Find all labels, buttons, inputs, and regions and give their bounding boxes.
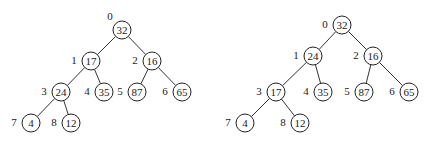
tree-node: 875 <box>117 83 146 101</box>
node-value: 87 <box>132 86 144 98</box>
tree-edge <box>282 62 306 85</box>
node-index-label: 8 <box>51 116 57 128</box>
node-index-label: 4 <box>303 85 309 97</box>
node-value: 4 <box>28 117 34 129</box>
node-index-label: 7 <box>225 116 231 128</box>
tree-node: 875 <box>344 83 373 101</box>
tree-node: 243 <box>41 83 70 101</box>
tree-edge <box>158 67 175 85</box>
node-index-label: 2 <box>353 49 359 61</box>
node-value: 65 <box>404 86 416 98</box>
heap-before: 32017116224335487565647128 <box>11 10 191 132</box>
node-value: 16 <box>368 50 380 62</box>
node-index-label: 5 <box>117 85 123 97</box>
heap-after: 32024116217335487565647128 <box>225 16 418 132</box>
node-value: 35 <box>318 86 330 98</box>
node-value: 24 <box>56 86 68 98</box>
tree-edge <box>128 36 145 54</box>
tree-edge <box>64 101 68 115</box>
tree-edge <box>379 62 402 85</box>
tree-node: 354 <box>84 83 113 101</box>
tree-node: 162 <box>353 47 382 65</box>
tree-node: 47 <box>225 114 254 132</box>
tree-edge <box>141 69 148 84</box>
node-value: 17 <box>271 86 283 98</box>
tree-edge <box>251 98 269 116</box>
node-index-label: 8 <box>280 116 286 128</box>
tree-node: 128 <box>280 114 309 132</box>
tree-edge <box>315 65 320 84</box>
node-value: 65 <box>177 86 189 98</box>
node-value: 87 <box>359 86 371 98</box>
node-value: 32 <box>117 24 128 36</box>
node-value: 17 <box>86 55 98 67</box>
node-value: 12 <box>66 117 77 129</box>
tree-node: 320 <box>107 10 131 39</box>
tree-edge <box>97 36 115 54</box>
tree-edge <box>282 99 295 116</box>
tree-node: 320 <box>322 16 351 34</box>
node-index-label: 3 <box>41 85 47 97</box>
tree-node: 47 <box>11 114 40 132</box>
node-index-label: 1 <box>293 49 299 61</box>
node-value: 35 <box>99 86 111 98</box>
tree-node: 656 <box>389 83 418 101</box>
node-value: 32 <box>337 19 348 31</box>
node-index-label: 3 <box>256 85 262 97</box>
node-index-label: 0 <box>322 18 328 30</box>
tree-node: 173 <box>256 83 285 101</box>
node-value: 4 <box>242 117 248 129</box>
node-index-label: 7 <box>11 116 17 128</box>
tree-edge <box>366 65 371 84</box>
tree-node: 162 <box>132 52 161 70</box>
tree-edge <box>319 32 336 50</box>
tree-edge <box>67 67 84 85</box>
tree-edge <box>37 98 54 116</box>
tree-node: 241 <box>293 47 322 65</box>
tree-edge <box>348 31 366 49</box>
node-index-label: 4 <box>84 85 90 97</box>
node-index-label: 2 <box>132 54 138 66</box>
node-index-label: 6 <box>162 85 168 97</box>
node-value: 16 <box>147 55 159 67</box>
node-index-label: 1 <box>71 54 77 66</box>
node-index-label: 0 <box>107 10 113 22</box>
tree-node: 656 <box>162 83 191 101</box>
node-index-label: 5 <box>344 85 350 97</box>
tree-node: 171 <box>71 52 100 70</box>
node-value: 12 <box>295 117 306 129</box>
heap-diagram: 3201711622433548756564712832024116217335… <box>0 0 430 148</box>
node-value: 24 <box>308 50 320 62</box>
tree-edge <box>94 69 100 83</box>
tree-node: 354 <box>303 83 332 101</box>
tree-node: 128 <box>51 114 80 132</box>
node-index-label: 6 <box>389 85 395 97</box>
